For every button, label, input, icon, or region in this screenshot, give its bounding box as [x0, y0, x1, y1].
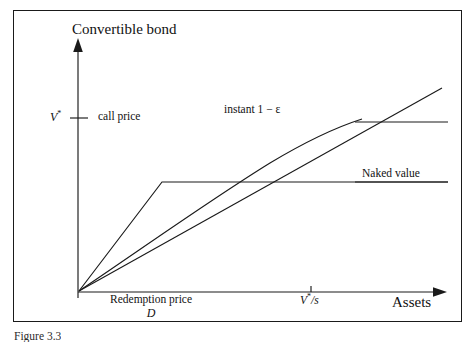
curve-naked-value [79, 182, 448, 291]
x-tick-symbol: V [300, 294, 307, 306]
x-axis-arrowhead [433, 287, 447, 297]
x-axis-title: Assets [392, 295, 431, 310]
redemption-price-text: Redemption price [110, 293, 192, 305]
x-axis-tick-label: V*/s [300, 293, 319, 306]
instant-annotation: instant 1 − ε [224, 104, 280, 116]
y-axis-title: Convertible bond [72, 22, 177, 37]
redemption-price-symbol: D [110, 307, 192, 319]
figure-caption: Figure 3.3 [14, 330, 61, 342]
call-price-annotation: call price [98, 111, 140, 123]
y-axis-arrowhead [73, 38, 83, 52]
x-tick-denominator: s [314, 294, 318, 306]
naked-value-annotation: Naked value [362, 168, 420, 180]
y-tick-superscript: * [57, 109, 61, 118]
curve-convertible-bond [79, 119, 362, 291]
redemption-price-label: Redemption priceD [110, 294, 192, 319]
y-axis-tick-label: V* [50, 110, 61, 123]
